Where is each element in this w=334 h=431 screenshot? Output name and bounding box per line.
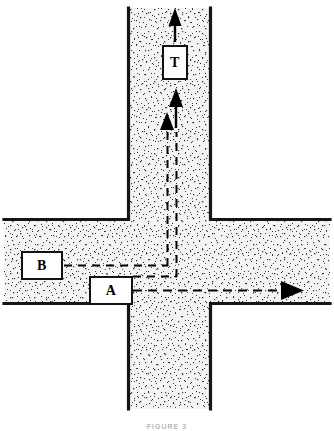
figure-caption: FIGURE 3 [0,422,334,431]
vehicle-label-T: T [170,55,180,70]
vehicle-box-T[interactable]: T [163,46,187,79]
road-edge-southwest [4,304,129,410]
figure-root: T B A FIGURE 3 [0,0,334,431]
road-edge-northeast [211,8,331,220]
road-edge-southeast [211,304,331,410]
vehicle-label-A: A [106,283,117,298]
intersection-diagram: T B A [0,0,334,431]
vehicle-label-B: B [37,258,47,273]
vehicle-box-B[interactable]: B [22,252,62,279]
vehicle-box-A[interactable]: A [90,277,132,304]
road-edge-northwest [4,8,129,220]
